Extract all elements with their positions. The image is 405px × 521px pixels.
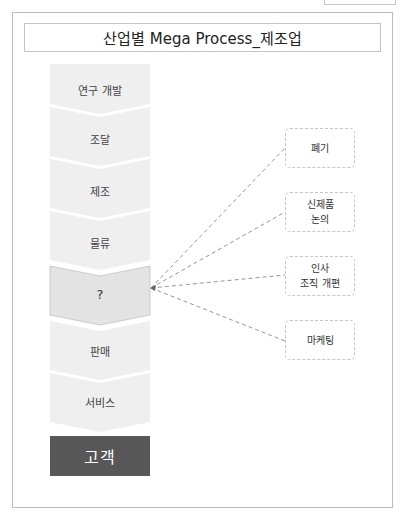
candidate-line1: 인사: [300, 261, 339, 276]
step-label: 판매: [50, 343, 150, 359]
step-label: 서비스: [50, 394, 150, 410]
step-label: 물류: [50, 235, 150, 251]
connector-line-disposal: [151, 148, 285, 288]
candidate-box-new-product: 신제품 논의: [285, 192, 355, 232]
candidate-line1: 폐기: [311, 141, 329, 156]
candidate-line1: 마케팅: [307, 333, 334, 348]
candidate-line2: 조직 개편: [300, 276, 339, 291]
step-label: 연구 개발: [50, 82, 150, 98]
candidate-box-disposal: 폐기: [285, 128, 355, 168]
step-label: 제조: [50, 183, 150, 199]
customer-label: 고객: [84, 444, 116, 468]
candidate-box-hr-reorg: 인사 조직 개편: [285, 256, 355, 296]
connector-line-marketing: [151, 288, 285, 341]
customer-box: 고객: [50, 436, 150, 476]
step-label-unknown: ?: [50, 287, 150, 302]
candidate-line1: 신제품: [307, 197, 334, 212]
candidate-box-marketing: 마케팅: [285, 320, 355, 360]
candidate-line2: 논의: [307, 212, 334, 227]
step-label: 조달: [50, 131, 150, 147]
connector-lines: [151, 148, 285, 341]
